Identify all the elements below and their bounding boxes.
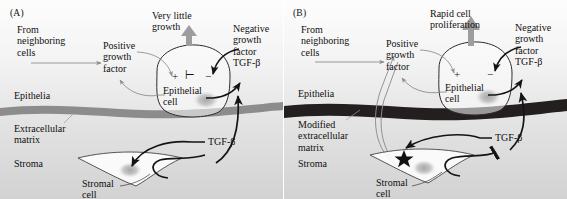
label-stroma-b: Stroma	[298, 158, 327, 169]
label-tgf-beta-a: TGF-β	[208, 136, 235, 147]
label-positive-growth-factor-a: Positive growth factor	[103, 40, 135, 74]
label-extracellular-matrix-a: Extracellular matrix	[14, 123, 66, 146]
panel-a: (A) From neighboring cells Positive grow…	[0, 0, 283, 199]
tgfb-to-stromal-cell-arrow-b	[406, 135, 480, 148]
label-negative-growth-factor-a: Negative growth factor TGF-β	[233, 23, 269, 69]
label-negative-growth-factor-b: Negative growth factor TGF-β	[515, 22, 551, 68]
label-growth-outcome-a: Very little growth	[152, 10, 192, 33]
figure-root: (A) From neighboring cells Positive grow…	[0, 0, 567, 199]
label-epithelia-a: Epithelia	[14, 90, 50, 101]
label-stromal-cell-a: Stromal cell	[82, 178, 114, 199]
label-epithelial-cell-b: Epithelial cell	[445, 82, 484, 105]
stromal-nucleus-a	[118, 162, 142, 178]
ecm-leader-line-a	[64, 113, 74, 123]
stromal-nucleus-b	[412, 160, 436, 176]
label-from-neighboring-cells-a: From neighboring cells	[17, 24, 65, 58]
extracellular-matrix-band-a	[0, 102, 283, 118]
cell-symbol-minus-b: −	[487, 68, 493, 80]
label-epithelia-b: Epithelia	[298, 88, 334, 99]
cell-symbol-plus-a: +	[172, 70, 178, 82]
label-growth-outcome-b: Rapid cell proliferation	[430, 8, 480, 31]
cell-symbol-plus-b: +	[454, 68, 460, 80]
cell-symbol-inhibition-a: ⊢	[185, 69, 195, 82]
panel-label-a: (A)	[10, 8, 24, 18]
panel-b: (B) From neighboring cells Positive grow…	[284, 0, 567, 199]
label-modified-extracellular-matrix-b: Modified extracellular matrix	[298, 119, 348, 153]
label-from-neighboring-cells-b: From neighboring cells	[301, 24, 349, 58]
label-stromal-cell-b: Stromal cell	[376, 177, 408, 199]
gf-receptor-return-arrow-a	[120, 80, 160, 96]
label-positive-growth-factor-b: Positive growth factor	[386, 38, 418, 72]
label-tgf-beta-b: TGF-β	[495, 132, 522, 143]
gf-receptor-return-arrow-b	[402, 78, 442, 93]
label-epithelial-cell-a: Epithelial cell	[163, 85, 202, 108]
panel-label-b: (B)	[293, 8, 306, 18]
label-stroma-a: Stroma	[14, 158, 43, 169]
cell-symbol-minus-a: −	[205, 70, 211, 82]
